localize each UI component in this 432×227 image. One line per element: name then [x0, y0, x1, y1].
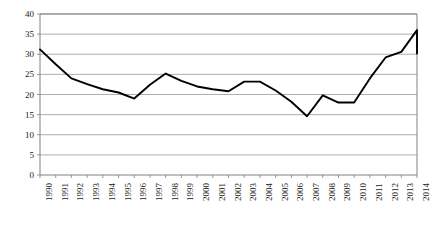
- data-series-line: [40, 30, 417, 116]
- x-tick-label-2014: 2014: [421, 183, 431, 201]
- x-tick-label-2005: 2005: [280, 183, 290, 201]
- y-tick-label-40: 40: [12, 9, 34, 19]
- x-tick-label-1997: 1997: [154, 183, 164, 201]
- y-tick-label-0: 0: [12, 170, 34, 180]
- x-tick-label-2013: 2013: [405, 183, 415, 201]
- y-tick-label-35: 35: [12, 29, 34, 39]
- x-tick-label-1996: 1996: [138, 183, 148, 201]
- x-tick-label-2009: 2009: [342, 183, 352, 201]
- y-tick-label-5: 5: [12, 150, 34, 160]
- x-tick-label-1994: 1994: [107, 183, 117, 201]
- x-tick-label-2003: 2003: [248, 183, 258, 201]
- x-tick-label-1990: 1990: [44, 183, 54, 201]
- x-tick-label-2008: 2008: [327, 183, 337, 201]
- y-tick-label-25: 25: [12, 69, 34, 79]
- x-tick-label-2011: 2011: [374, 183, 384, 201]
- y-tick-label-20: 20: [12, 90, 34, 100]
- x-tick-label-2012: 2012: [390, 183, 400, 201]
- y-tick-label-30: 30: [12, 49, 34, 59]
- x-tick-label-1999: 1999: [185, 183, 195, 201]
- x-tick-label-2001: 2001: [217, 183, 227, 201]
- x-tick-label-1993: 1993: [91, 183, 101, 201]
- x-tick-label-1998: 1998: [170, 183, 180, 201]
- x-tick-label-2004: 2004: [264, 183, 274, 201]
- x-tick-label-2006: 2006: [295, 183, 305, 201]
- x-tick-label-1991: 1991: [60, 183, 70, 201]
- x-tick-label-2000: 2000: [201, 183, 211, 201]
- x-tick-label-2002: 2002: [233, 183, 243, 201]
- x-tick-label-2010: 2010: [358, 183, 368, 201]
- x-tick-label-1995: 1995: [123, 183, 133, 201]
- x-tick-label-1992: 1992: [75, 183, 85, 201]
- line-chart-figure: 0510152025303540 19901991199219931994199…: [0, 0, 432, 227]
- y-tick-label-10: 10: [12, 130, 34, 140]
- y-tick-label-15: 15: [12, 110, 34, 120]
- x-tick-label-2007: 2007: [311, 183, 321, 201]
